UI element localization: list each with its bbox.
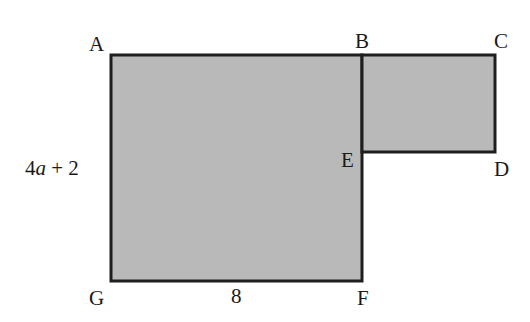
- side-ag-constant: + 2: [46, 156, 79, 180]
- large-rectangle-ABFG: [111, 55, 362, 281]
- side-ag-variable: a: [36, 156, 47, 180]
- side-length-gf: 8: [231, 284, 242, 308]
- vertex-label-g: G: [89, 286, 104, 310]
- vertex-label-d: D: [494, 157, 509, 181]
- small-rectangle-BCDE: [362, 55, 495, 152]
- vertex-label-b: B: [355, 29, 369, 53]
- geometry-figure: A B C D E F G 4a + 2 8: [0, 0, 530, 322]
- side-length-ag: 4a + 2: [25, 156, 79, 180]
- vertex-label-e: E: [341, 148, 354, 172]
- vertex-label-c: C: [494, 29, 508, 53]
- vertex-label-a: A: [89, 32, 105, 56]
- side-ag-coefficient: 4: [25, 156, 36, 180]
- vertex-label-f: F: [357, 286, 369, 310]
